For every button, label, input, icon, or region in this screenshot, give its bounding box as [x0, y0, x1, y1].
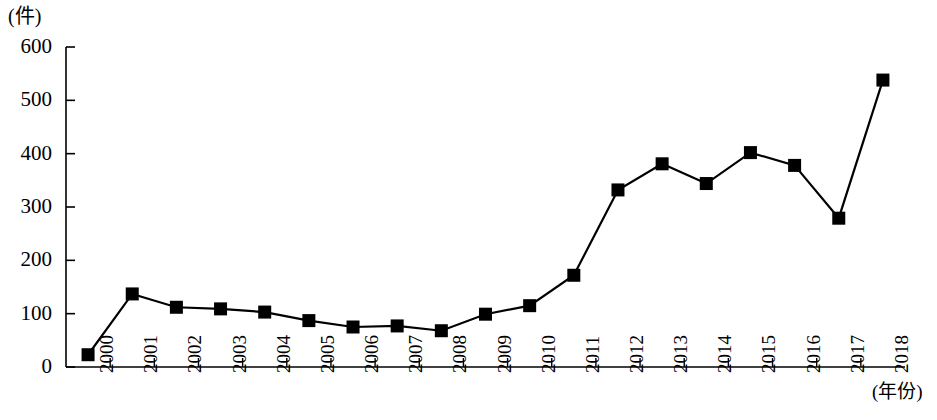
data-point-marker: [258, 306, 271, 319]
data-point-marker: [214, 302, 227, 315]
x-axis-tick-label: 2007: [406, 335, 425, 373]
x-axis-tick-label: 2005: [318, 335, 337, 373]
data-point-marker: [347, 321, 360, 334]
line-chart: (件) 0100200300400500600 2000200120022003…: [0, 0, 937, 420]
x-axis-tick-label: 2016: [804, 335, 823, 373]
x-axis-tick-label: 2004: [274, 335, 293, 373]
x-axis-tick-label: 2002: [185, 335, 204, 373]
x-axis-title: (年份): [872, 381, 923, 403]
x-axis-tick-label: 2001: [141, 335, 160, 373]
data-point-marker: [391, 319, 404, 332]
data-point-marker: [567, 269, 580, 282]
data-point-marker: [832, 212, 845, 225]
y-axis-ticks: [66, 47, 75, 367]
x-axis-tick-label: 2017: [848, 335, 867, 373]
data-point-marker: [744, 146, 757, 159]
data-point-marker: [302, 314, 315, 327]
x-axis-tick-label: 2003: [230, 335, 249, 373]
x-axis-tick-label: 2006: [362, 335, 381, 373]
data-point-markers: [82, 74, 890, 362]
x-axis-tick-label: 2009: [495, 335, 514, 373]
data-point-marker: [435, 324, 448, 337]
x-axis-tick-label: 2011: [583, 336, 602, 373]
data-point-marker: [126, 287, 139, 300]
data-point-marker: [788, 159, 801, 172]
data-point-marker: [876, 74, 889, 87]
x-axis-tick-label: 2012: [627, 335, 646, 373]
data-point-marker: [82, 348, 95, 361]
data-point-marker: [656, 157, 669, 170]
x-axis-ticks: [110, 358, 861, 367]
data-point-marker: [170, 301, 183, 314]
x-axis-tick-label: 2010: [539, 335, 558, 373]
data-point-marker: [611, 183, 624, 196]
data-point-marker: [700, 177, 713, 190]
x-axis-tick-label: 2014: [715, 335, 734, 373]
data-point-marker: [479, 308, 492, 321]
x-axis-tick-label: 2013: [671, 335, 690, 373]
x-axis-tick-label: 2008: [450, 335, 469, 373]
x-axis-tick-label: 2000: [97, 335, 116, 373]
data-point-marker: [523, 299, 536, 312]
x-axis-tick-label: 2018: [892, 335, 911, 373]
x-axis-tick-label: 2015: [759, 335, 778, 373]
